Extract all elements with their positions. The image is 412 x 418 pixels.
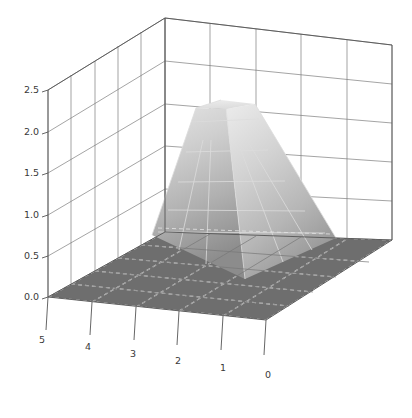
x-tick-label-3: 2 [175, 355, 181, 366]
z-tick-label-0: 0.0 [24, 291, 39, 302]
x-tick-labels: 5 4 3 2 1 0 [39, 334, 271, 380]
x-tick-label-4: 1 [220, 362, 226, 373]
z-tick-label-2: 1.0 [24, 209, 39, 220]
plot-canvas: 0.0 0.5 1.0 1.5 2.0 2.5 5 4 3 2 1 0 [0, 0, 412, 418]
z-tick-label-3: 1.5 [24, 167, 39, 178]
x-tick-label-1: 4 [85, 341, 91, 352]
surface-plot-figure: 0.0 0.5 1.0 1.5 2.0 2.5 5 4 3 2 1 0 [0, 0, 412, 418]
z-tick-marks [42, 90, 48, 299]
z-tick-label-1: 0.5 [24, 250, 39, 261]
x-tick-label-0: 5 [39, 334, 45, 345]
x-tick-label-5: 0 [265, 369, 271, 380]
x-tick-label-2: 3 [130, 348, 136, 359]
z-tick-labels: 0.0 0.5 1.0 1.5 2.0 2.5 [24, 84, 39, 302]
z-tick-label-5: 2.5 [24, 84, 39, 95]
z-tick-label-4: 2.0 [24, 126, 39, 137]
